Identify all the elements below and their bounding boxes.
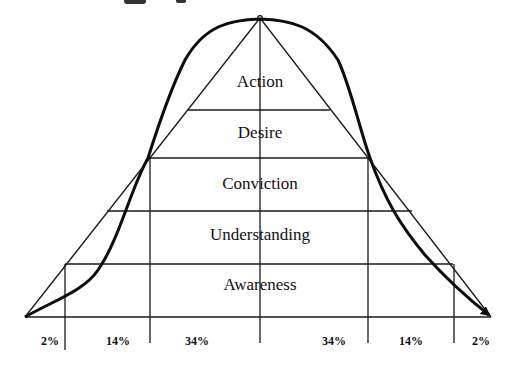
bell-curve-diagram: Action Desire Conviction Understanding A… (0, 0, 508, 366)
pct-label-3: 34% (185, 334, 209, 348)
stage-label-action: Action (237, 72, 284, 91)
stage-label-awareness: Awareness (223, 275, 296, 294)
cropped-title-fragment (124, 0, 186, 4)
pct-label-6: 2% (472, 334, 490, 348)
stage-label-desire: Desire (238, 123, 282, 142)
triangle-right-side (260, 18, 491, 317)
bell-curve (25, 19, 489, 317)
stage-label-conviction: Conviction (222, 174, 298, 193)
pct-label-4: 34% (322, 334, 346, 348)
pct-label-5: 14% (399, 334, 423, 348)
stage-label-understanding: Understanding (210, 225, 311, 244)
pct-label-1: 2% (41, 334, 59, 348)
pct-label-2: 14% (106, 334, 130, 348)
